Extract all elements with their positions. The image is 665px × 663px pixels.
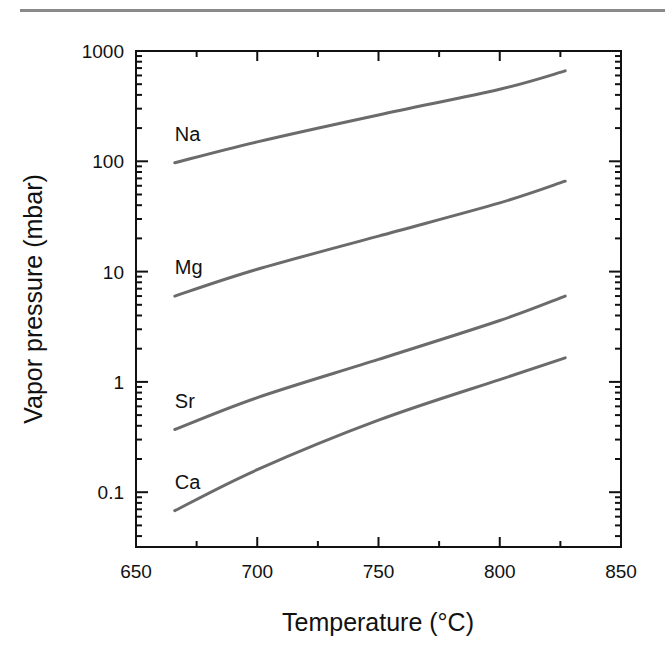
curve-mg (175, 181, 565, 296)
x-tick-label: 700 (241, 561, 273, 582)
series-label-na: Na (175, 123, 201, 145)
curve-ca (175, 358, 565, 511)
y-tick-label: 100 (92, 151, 124, 172)
series-label-sr: Sr (175, 390, 195, 412)
series-label-mg: Mg (175, 256, 203, 278)
x-tick-label: 750 (363, 561, 395, 582)
curve-sr (175, 296, 565, 429)
curve-na (175, 71, 565, 163)
x-tick-label: 800 (484, 561, 516, 582)
x-tick-label: 850 (605, 561, 637, 582)
series-curves (175, 71, 565, 511)
series-labels: NaMgSrCa (175, 123, 203, 493)
vapor-pressure-chart: 6507007508008500.11101001000 NaMgSrCa Te… (0, 0, 665, 663)
series-label-ca: Ca (175, 471, 201, 493)
x-tick-label: 650 (120, 561, 152, 582)
plot-frame (136, 51, 621, 547)
y-tick-label: 0.1 (98, 482, 124, 503)
axis-ticks (136, 51, 621, 547)
y-tick-label: 1000 (82, 41, 124, 62)
tick-labels: 6507007508008500.11101001000 (82, 41, 637, 582)
x-axis-label: Temperature (°C) (282, 608, 474, 636)
y-tick-label: 10 (103, 262, 124, 283)
y-tick-label: 1 (113, 372, 124, 393)
y-axis-label: Vapor pressure (mbar) (19, 174, 47, 424)
